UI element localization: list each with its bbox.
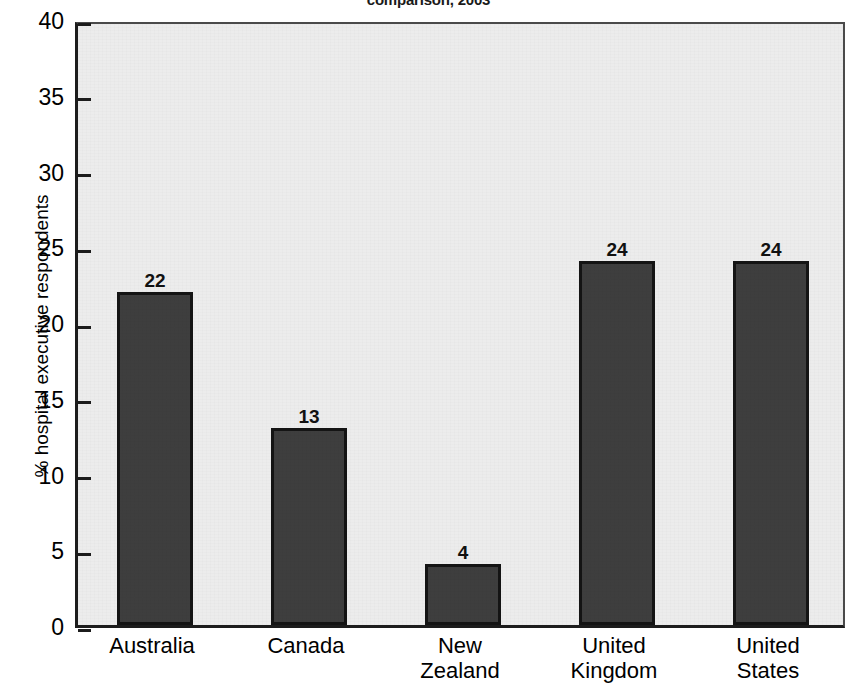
y-axis-tick-label: 25	[4, 237, 64, 260]
bar-value-label: 4	[423, 542, 503, 564]
bar-value-label: 24	[577, 239, 657, 261]
bar-value-label: 13	[269, 406, 349, 428]
x-axis-category-label: Australia	[75, 633, 229, 658]
x-axis-category-label-line: Kingdom	[537, 658, 691, 683]
plot-inner: 221342424	[78, 24, 843, 625]
bar	[271, 428, 347, 625]
bar-value-label: 24	[731, 239, 811, 261]
y-axis-tick	[78, 553, 91, 556]
y-axis-tick	[78, 326, 91, 329]
y-axis-tick-labels: 0510152025303540	[0, 22, 64, 628]
x-axis-category-label-line: Australia	[75, 633, 229, 658]
y-axis-tick	[78, 23, 91, 26]
x-axis-category-label: UnitedKingdom	[537, 633, 691, 683]
x-axis-category-label: UnitedStates	[691, 633, 845, 683]
x-axis-category-label: Canada	[229, 633, 383, 658]
y-axis-tick-label: 5	[4, 540, 64, 563]
y-axis-tick	[78, 98, 91, 101]
x-axis-category-label-line: New	[383, 633, 537, 658]
x-axis-category-label: NewZealand	[383, 633, 537, 683]
y-axis-tick	[78, 477, 91, 480]
y-axis-tick	[78, 401, 91, 404]
y-axis-tick-label: 30	[4, 162, 64, 185]
x-axis-category-label-line: States	[691, 658, 845, 683]
bar	[733, 261, 809, 625]
bar-value-label: 22	[115, 270, 195, 292]
x-axis-category-label-line: Canada	[229, 633, 383, 658]
x-axis-category-label-line: United	[537, 633, 691, 658]
y-axis-tick	[78, 174, 91, 177]
y-axis-tick	[78, 629, 91, 632]
y-axis-tick-label: 40	[4, 10, 64, 33]
y-axis-tick-label: 20	[4, 313, 64, 336]
chart-title: comparison, 2003	[0, 0, 857, 8]
x-axis-category-label-line: United	[691, 633, 845, 658]
bar	[117, 292, 193, 625]
y-axis-tick-label: 15	[4, 389, 64, 412]
plot-area: 221342424	[75, 22, 845, 628]
x-axis-category-label-line: Zealand	[383, 658, 537, 683]
y-axis-tick-label: 35	[4, 86, 64, 109]
x-axis-category-labels: AustraliaCanadaNewZealandUnitedKingdomUn…	[75, 633, 845, 682]
y-axis-tick-label: 0	[4, 616, 64, 639]
bar	[425, 564, 501, 625]
bar	[579, 261, 655, 625]
y-axis-tick	[78, 250, 91, 253]
y-axis-tick-label: 10	[4, 465, 64, 488]
